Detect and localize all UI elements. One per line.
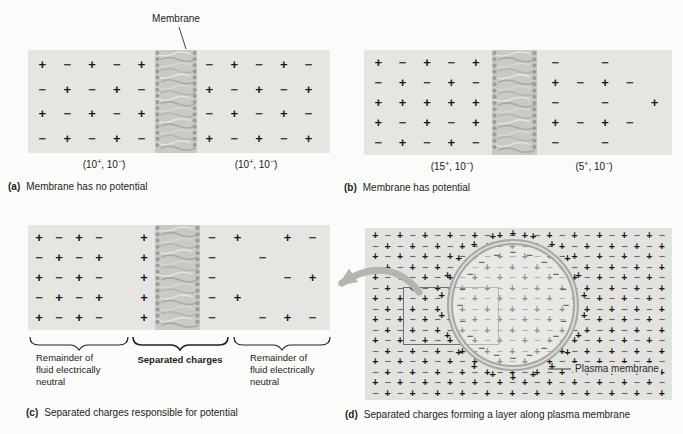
plus-charge: + — [447, 356, 453, 367]
minus-charge: − — [423, 76, 431, 89]
plus-charge: + — [140, 251, 148, 264]
plasma-membrane-label: Plasma membrane — [573, 363, 661, 374]
minus-charge: − — [634, 272, 640, 283]
minus-charge: − — [230, 83, 238, 96]
minus-charge: − — [95, 271, 103, 284]
plus-charge: + — [646, 230, 652, 241]
minus-charge: − — [571, 388, 577, 399]
minus-charge: − — [534, 314, 540, 325]
plus-charge: + — [305, 83, 313, 96]
plus-charge: + — [646, 314, 652, 325]
minus-charge: − — [659, 251, 665, 262]
plus-charge: + — [255, 83, 263, 96]
minus-charge: − — [459, 251, 465, 262]
minus-charge: − — [509, 377, 515, 388]
plus-charge: + — [75, 311, 83, 324]
minus-charge: − — [305, 58, 313, 71]
membrane-bilayer-b — [492, 50, 537, 155]
minus-charge: − — [75, 251, 83, 264]
figure-membrane-potential: Membrane +−+−+−+−+−+−+−+−+−+− −+−+−+−+−+… — [0, 0, 683, 434]
minus-charge: − — [385, 272, 391, 283]
minus-charge: − — [609, 230, 615, 241]
plus-charge: + — [63, 83, 71, 96]
minus-charge: − — [399, 116, 407, 129]
minus-charge: − — [659, 335, 665, 346]
plus-charge: + — [372, 356, 378, 367]
plus-charge: + — [35, 231, 43, 244]
panel-b-right-count: (5+, 10−) — [534, 160, 654, 172]
plus-charge: + — [547, 293, 553, 304]
plus-charge: + — [571, 377, 577, 388]
minus-charge: − — [609, 293, 615, 304]
superscript-sign: + — [97, 158, 101, 165]
plus-charge: + — [234, 291, 242, 304]
minus-charge: − — [35, 291, 43, 304]
minus-charge: − — [484, 230, 490, 241]
minus-charge: − — [434, 230, 440, 241]
membrane-bilayer-a — [155, 50, 197, 153]
minus-charge: − — [39, 83, 47, 96]
plus-charge: + — [509, 388, 515, 399]
minus-charge: − — [634, 293, 640, 304]
plus-charge: + — [385, 388, 391, 399]
caption-b: (b)Membrane has potential — [344, 182, 470, 193]
caption-d: (d)Separated charges forming a layer alo… — [345, 409, 630, 420]
minus-charge: − — [497, 388, 503, 399]
minus-charge: − — [534, 230, 540, 241]
minus-charge: − — [385, 335, 391, 346]
superscript-sign: + — [584, 160, 588, 167]
minus-charge: − — [634, 251, 640, 262]
minus-charge: − — [88, 132, 96, 145]
minus-charge: − — [552, 96, 560, 109]
plus-charge: + — [397, 230, 403, 241]
minus-charge: − — [422, 388, 428, 399]
plus-charge: + — [447, 377, 453, 388]
minus-charge: − — [385, 293, 391, 304]
minus-charge: − — [397, 388, 403, 399]
minus-charge: − — [434, 356, 440, 367]
plus-charge: + — [39, 58, 47, 71]
plus-charge: + — [447, 251, 453, 262]
minus-charge: − — [609, 314, 615, 325]
plus-charge: + — [113, 83, 121, 96]
minus-charge: − — [659, 272, 665, 283]
plus-charge: + — [601, 116, 609, 129]
minus-charge: − — [552, 136, 560, 149]
panel-a-left-count: (10+, 10−) — [44, 158, 164, 170]
minus-charge: − — [230, 132, 238, 145]
brace-right — [234, 337, 330, 350]
minus-charge: − — [88, 83, 96, 96]
plus-charge: + — [472, 356, 478, 367]
plus-charge: + — [35, 271, 43, 284]
plus-charge: + — [447, 272, 453, 283]
minus-charge: − — [410, 230, 416, 241]
plus-charge: + — [659, 388, 665, 399]
minus-charge: − — [534, 293, 540, 304]
plus-charge: + — [88, 107, 96, 120]
panel-a-right-count: (10+, 10−) — [196, 158, 316, 170]
minus-charge: − — [484, 356, 490, 367]
minus-charge: − — [559, 377, 565, 388]
plus-charge: + — [621, 377, 627, 388]
membrane-callout-line — [179, 27, 186, 49]
minus-charge: − — [472, 388, 478, 399]
plus-charge: + — [422, 251, 428, 262]
plus-charge: + — [571, 335, 577, 346]
plus-charge: + — [448, 76, 456, 89]
plus-charge: + — [534, 388, 540, 399]
label-left-neutral-fluid: Remainder of fluid electrically neutral — [36, 352, 136, 388]
membrane-callout-label: Membrane — [145, 13, 207, 24]
plus-charge: + — [596, 230, 602, 241]
plus-charge: + — [422, 272, 428, 283]
panel-a-left-charges: +−+−+−+−+−+−+−+−+−+− — [30, 52, 154, 151]
plus-charge: + — [609, 388, 615, 399]
minus-charge: − — [208, 271, 216, 284]
minus-charge: − — [372, 388, 378, 399]
plus-charge: + — [140, 231, 148, 244]
minus-charge: − — [138, 132, 146, 145]
minus-charge: − — [584, 251, 590, 262]
minus-charge: − — [208, 231, 216, 244]
plus-charge: + — [472, 251, 478, 262]
caption-d-text: Separated charges forming a layer along … — [364, 409, 630, 420]
plus-charge: + — [138, 107, 146, 120]
